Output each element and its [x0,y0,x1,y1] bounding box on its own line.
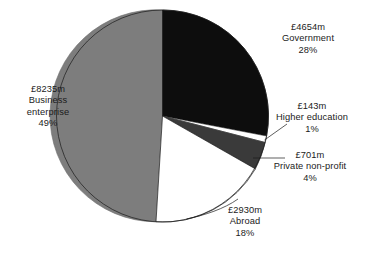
slice-amount-private-non-profit: £701m [254,150,366,161]
slice-name-business-enterprise-line1: Business [2,95,94,106]
slice-amount-government: £4654m [256,22,360,33]
slice-name-private-non-profit: Private non-profit [254,161,366,172]
pie-slice-government[interactable] [163,10,269,136]
slice-amount-business-enterprise: £8235m [2,84,94,95]
slice-label-business-enterprise: £8235m Business enterprise 49% [2,84,94,130]
slice-label-abroad: £2930m Abroad 18% [196,205,294,239]
slice-amount-abroad: £2930m [196,205,294,216]
slice-percent-abroad: 18% [196,228,294,239]
slice-name-higher-education: Higher education [258,112,366,123]
slice-name-business-enterprise-line2: enterprise [2,107,94,118]
slice-percent-business-enterprise: 49% [2,118,94,129]
slice-percent-private-non-profit: 4% [254,173,366,184]
slice-label-government: £4654m Government 28% [256,22,360,56]
slice-label-higher-education: £143m Higher education 1% [258,101,366,135]
slice-percent-government: 28% [256,45,360,56]
pie-chart: £4654m Government 28% £143m Higher educa… [0,0,366,253]
slice-label-private-non-profit: £701m Private non-profit 4% [254,150,366,184]
slice-name-government: Government [256,33,360,44]
slice-amount-higher-education: £143m [258,101,366,112]
slice-percent-higher-education: 1% [258,124,366,135]
slice-name-abroad: Abroad [196,216,294,227]
